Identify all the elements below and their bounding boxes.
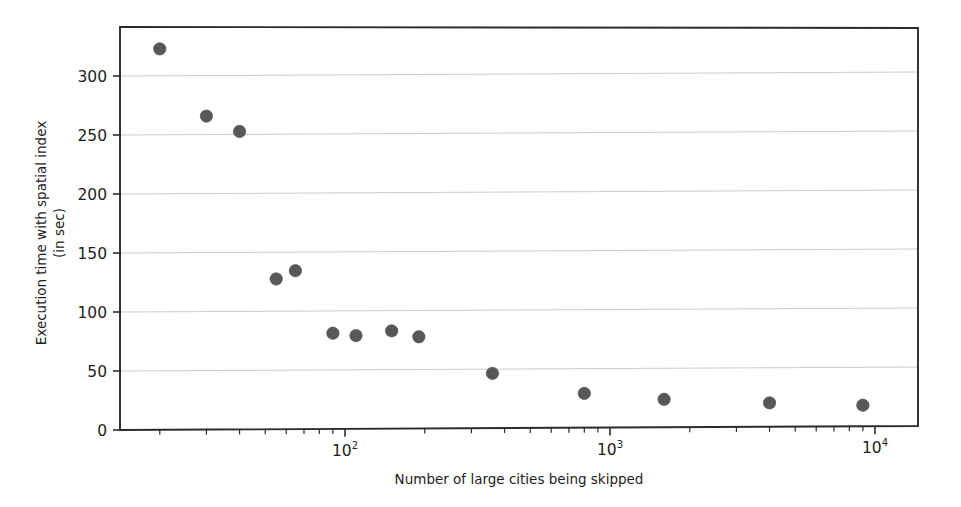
gridlines-group <box>120 72 918 371</box>
chart-figure: 050100150200250300 102103104 Number of l… <box>0 0 961 507</box>
y-tick-label: 150 <box>77 245 107 263</box>
y-tick-label: 200 <box>77 186 107 204</box>
data-point-marker <box>857 399 869 411</box>
y-tick-label: 100 <box>77 304 107 322</box>
y-axis-label-line1: Execution time with spatial index <box>33 121 49 345</box>
data-point-marker <box>658 393 670 405</box>
x-tick-label: 104 <box>862 437 888 457</box>
y-tick-marks-group <box>113 76 120 430</box>
data-point-marker <box>578 387 590 399</box>
y-tick-label: 250 <box>77 127 107 145</box>
data-point-marker <box>233 125 245 137</box>
data-point-marker <box>154 43 166 55</box>
data-point-marker <box>289 265 301 277</box>
data-point-marker <box>327 327 339 339</box>
axes-frame <box>120 27 918 430</box>
x-tick-labels-group: 102103104 <box>332 437 888 460</box>
y-tick-label: 0 <box>97 422 107 440</box>
axis-titles-group: Number of large cities being skipped Exe… <box>33 121 643 487</box>
data-point-marker <box>270 273 282 285</box>
data-point-marker <box>200 110 212 122</box>
data-markers-group <box>154 43 870 412</box>
grid-line <box>120 72 918 76</box>
y-tick-label: 300 <box>77 68 107 86</box>
data-point-marker <box>413 331 425 343</box>
grid-line <box>120 367 918 371</box>
y-tick-label: 50 <box>87 363 107 381</box>
data-point-marker <box>486 367 498 379</box>
grid-line <box>120 249 918 253</box>
data-point-marker <box>385 325 397 337</box>
grid-line <box>120 308 918 312</box>
data-point-marker <box>350 329 362 341</box>
y-tick-labels-group: 050100150200250300 <box>77 68 107 440</box>
y-axis-label-line2: (in sec) <box>51 208 67 258</box>
x-tick-label: 102 <box>332 440 358 460</box>
grid-line <box>120 190 918 194</box>
x-axis-label: Number of large cities being skipped <box>395 471 644 487</box>
data-point-marker <box>763 397 775 409</box>
scatter-plot-svg: 050100150200250300 102103104 Number of l… <box>0 0 961 507</box>
x-tick-label: 103 <box>597 439 623 459</box>
